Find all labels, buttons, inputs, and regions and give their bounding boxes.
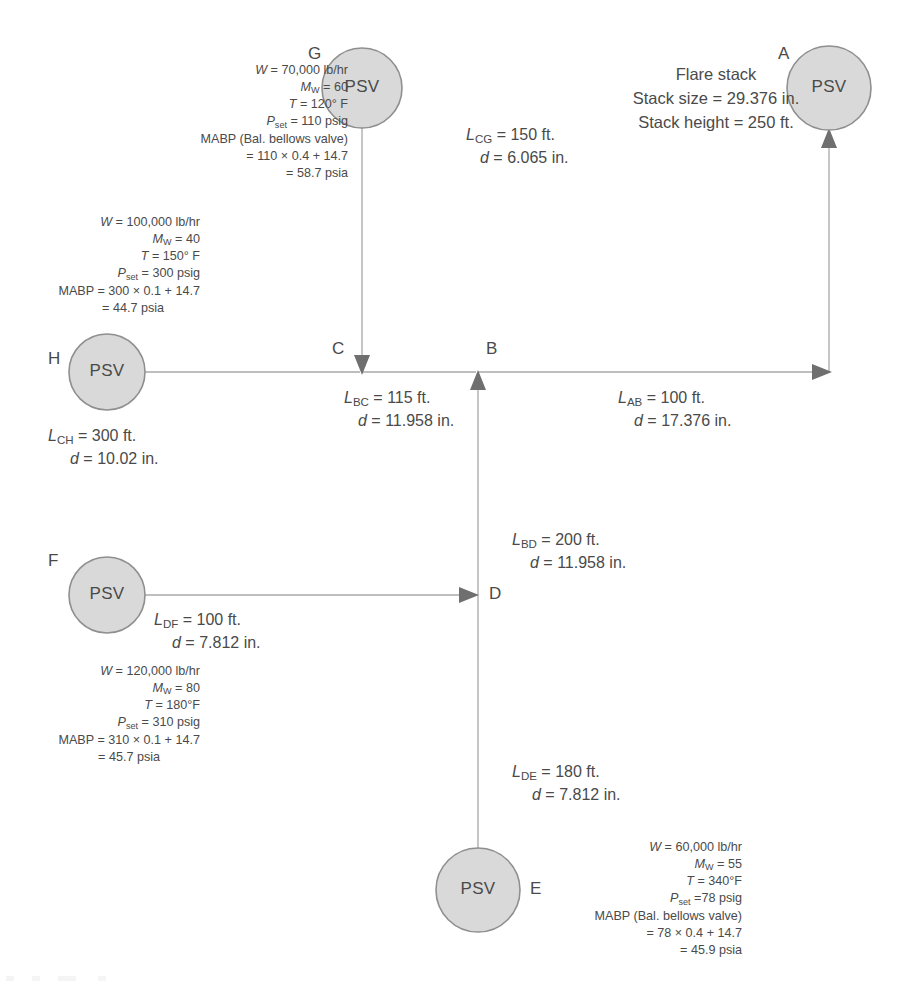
- segment-BC-length: = 115 ft.: [369, 389, 431, 406]
- spec-E-M-sub: W: [705, 862, 714, 872]
- spec-G-M-sub: W: [311, 85, 320, 95]
- segment-CG-dia: = 6.065 in.: [489, 149, 569, 166]
- segment-label-CG: LCG = 150 ft. d = 6.065 in.: [466, 123, 569, 169]
- spec-G-temp: = 120° F: [296, 97, 348, 111]
- flare-stack-height: Stack height = 250 ft.: [596, 111, 836, 135]
- psv-node-E-label: PSV: [438, 879, 518, 899]
- segment-CH-L: L: [48, 427, 57, 444]
- segment-label-DF: LDF = 100 ft. d = 7.812 in.: [154, 608, 261, 654]
- spec-block-H: W = 100,000 lb/hr MW = 40 T = 150° F Pse…: [24, 214, 200, 317]
- segment-label-AB: LAB = 100 ft. d = 17.376 in.: [618, 386, 731, 432]
- spec-H-mw: = 40: [172, 232, 200, 246]
- spec-E-W-symbol: W: [649, 840, 661, 854]
- segment-label-CH: LCH = 300 ft. d = 10.02 in.: [48, 424, 159, 470]
- segment-DE-sub: DE: [521, 770, 537, 782]
- spec-E-pset: =78 psig: [691, 891, 742, 905]
- node-letter-F: F: [48, 551, 58, 571]
- spec-block-G: W = 70,000 lb/hr MW = 60 T = 120° F Pset…: [176, 62, 348, 182]
- diagram-canvas: PSV PSV PSV PSV PSV A G H F E C B D Flar…: [0, 0, 908, 995]
- spec-H-temp: = 150° F: [148, 249, 200, 263]
- segment-CG-length: = 150 ft.: [492, 126, 555, 143]
- spec-H-M-sub: W: [163, 237, 172, 247]
- segment-CG-L: L: [466, 126, 475, 143]
- segment-AB-length: = 100 ft.: [642, 389, 705, 406]
- spec-H-P-sub: set: [126, 272, 138, 282]
- segment-BD-sub: BD: [521, 538, 537, 550]
- spec-F-mabp-head: MABP = 310 × 0.1 + 14.7: [24, 732, 200, 749]
- spec-E-mabp-calc: = 78 × 0.4 + 14.7: [566, 925, 742, 942]
- spec-E-mw: = 55: [714, 857, 742, 871]
- segment-DF-length: = 100 ft.: [178, 611, 241, 628]
- spec-F-mw: = 80: [172, 681, 200, 695]
- segment-BC-dia: = 11.958 in.: [367, 412, 454, 429]
- spec-G-P-symbol: P: [266, 114, 274, 128]
- node-letter-A: A: [778, 44, 789, 64]
- segment-BD-d: d: [530, 554, 539, 571]
- segment-BC-sub: BC: [353, 396, 369, 408]
- segment-CH-length: = 300 ft.: [74, 427, 137, 444]
- segment-BD-dia: = 11.958 in.: [539, 554, 626, 571]
- node-letter-C: C: [332, 339, 344, 359]
- piping-network-graphic: [0, 0, 908, 995]
- spec-H-M-symbol: M: [153, 232, 164, 246]
- spec-G-mabp-head: MABP (Bal. bellows valve): [176, 131, 348, 148]
- spec-H-flow: = 100,000 lb/hr: [112, 215, 200, 229]
- spec-E-P-sub: set: [678, 897, 690, 907]
- spec-H-W-symbol: W: [100, 215, 112, 229]
- node-letter-G: G: [308, 44, 321, 64]
- psv-node-F-label: PSV: [67, 584, 147, 604]
- segment-BD-length: = 200 ft.: [537, 531, 600, 548]
- segment-AB-d: d: [634, 412, 643, 429]
- spec-G-flow: = 70,000 lb/hr: [267, 63, 348, 77]
- segment-CH-d: d: [70, 450, 79, 467]
- spec-G-W-symbol: W: [255, 63, 267, 77]
- segment-CG-sub: CG: [475, 133, 492, 145]
- spec-G-M-symbol: M: [301, 80, 312, 94]
- flare-stack-size: Stack size = 29.376 in.: [596, 87, 836, 111]
- segment-CH-sub: CH: [57, 434, 74, 446]
- spec-F-M-sub: W: [163, 686, 172, 696]
- segment-DE-length: = 180 ft.: [537, 763, 600, 780]
- spec-F-M-symbol: M: [153, 681, 164, 695]
- spec-block-E: W = 60,000 lb/hr MW = 55 T = 340°F Pset …: [566, 839, 742, 959]
- segment-label-BD: LBD = 200 ft. d = 11.958 in.: [512, 528, 626, 574]
- spec-F-pset: = 310 psig: [138, 715, 200, 729]
- spec-H-mabp-result: = 44.7 psia: [24, 300, 200, 317]
- spec-F-T-symbol: T: [144, 698, 152, 712]
- spec-H-P-symbol: P: [118, 266, 126, 280]
- spec-H-mabp-head: MABP = 300 × 0.1 + 14.7: [24, 283, 200, 300]
- flare-stack-block: Flare stack Stack size = 29.376 in. Stac…: [596, 63, 836, 135]
- segment-BD-L: L: [512, 531, 521, 548]
- spec-E-flow: = 60,000 lb/hr: [661, 840, 742, 854]
- node-letter-E: E: [530, 879, 541, 899]
- spec-G-P-sub: set: [275, 120, 287, 130]
- spec-H-pset: = 300 psig: [138, 266, 200, 280]
- segment-label-BC: LBC = 115 ft. d = 11.958 in.: [344, 386, 454, 432]
- node-letter-B: B: [486, 339, 497, 359]
- spec-block-F: W = 120,000 lb/hr MW = 80 T = 180°F Pset…: [24, 663, 200, 766]
- segment-AB-dia: = 17.376 in.: [643, 412, 732, 429]
- spec-F-flow: = 120,000 lb/hr: [112, 664, 200, 678]
- segment-label-DE: LDE = 180 ft. d = 7.812 in.: [512, 760, 621, 806]
- spec-F-P-sub: set: [126, 721, 138, 731]
- segment-BC-L: L: [344, 389, 353, 406]
- scan-artifact: [6, 976, 156, 981]
- spec-G-pset: = 110 psig: [287, 114, 348, 128]
- arrowhead-D-right: [459, 587, 479, 603]
- psv-node-H-label: PSV: [67, 361, 147, 381]
- segment-CG-d: d: [480, 149, 489, 166]
- spec-F-temp: = 180°F: [152, 698, 200, 712]
- segment-DE-L: L: [512, 763, 521, 780]
- arrowhead-B-up: [470, 370, 486, 390]
- segment-CH-dia: = 10.02 in.: [79, 450, 159, 467]
- segment-AB-L: L: [618, 389, 627, 406]
- segment-DF-L: L: [154, 611, 163, 628]
- segment-AB-sub: AB: [627, 396, 642, 408]
- spec-G-mabp-calc: = 110 × 0.4 + 14.7: [176, 148, 348, 165]
- segment-DF-dia: = 7.812 in.: [181, 634, 261, 651]
- spec-G-mw: = 60: [320, 80, 348, 94]
- spec-E-M-symbol: M: [695, 857, 706, 871]
- spec-E-mabp-head: MABP (Bal. bellows valve): [566, 908, 742, 925]
- segment-DF-sub: DF: [163, 618, 178, 630]
- segment-DE-dia: = 7.812 in.: [541, 786, 621, 803]
